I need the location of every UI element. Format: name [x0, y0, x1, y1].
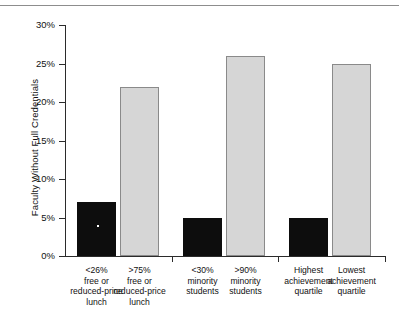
x-axis-line [65, 256, 386, 257]
x-axis-group-tick [278, 257, 279, 262]
bar [120, 87, 159, 256]
y-axis-tick-label: 5% [15, 213, 55, 223]
y-axis-tick-label: 15% [15, 136, 55, 146]
bar [77, 202, 116, 256]
y-axis-tick-label: 0% [15, 251, 55, 261]
x-axis-label-line: Lowest [312, 265, 392, 276]
x-axis-label-line: lunch [100, 297, 180, 308]
x-axis-label-line: achievement [312, 276, 392, 287]
bar [332, 64, 371, 257]
bar [226, 56, 265, 256]
x-axis-group-tick [385, 257, 386, 262]
plot-area [65, 25, 385, 256]
bar [183, 218, 222, 257]
bar [289, 218, 328, 257]
y-axis-tick-label: 10% [15, 174, 55, 184]
bar-speck-artifact [97, 225, 99, 227]
y-axis-tick-label: 25% [15, 59, 55, 69]
y-axis-tick-label: 30% [15, 20, 55, 30]
x-axis-label-line: quartile [312, 286, 392, 297]
x-axis-label: Lowestachievementquartile [312, 265, 392, 297]
bar-chart: Faculty Without Full Credentials 0%5%10%… [0, 0, 399, 310]
x-axis-group-tick [172, 257, 173, 262]
y-axis-tick [59, 256, 65, 257]
y-axis-tick-label: 20% [15, 97, 55, 107]
